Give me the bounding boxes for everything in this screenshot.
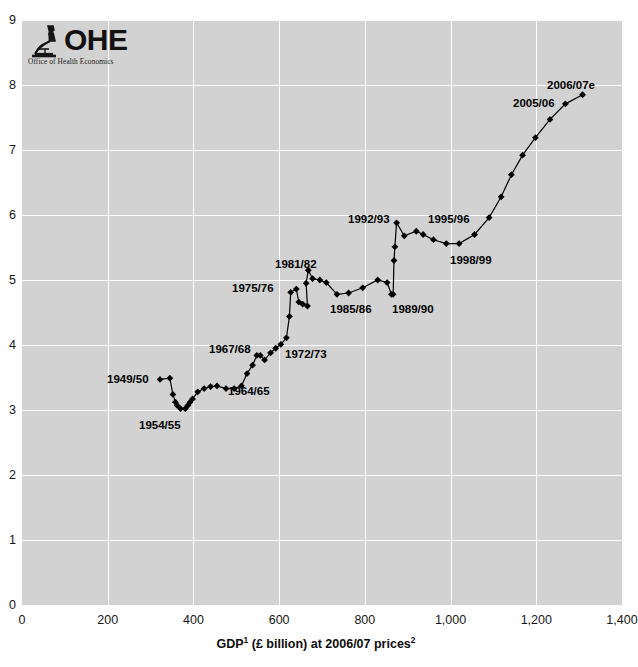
data-point-marker: [384, 279, 391, 286]
logo-subtitle: Office of Health Economics: [28, 57, 114, 66]
data-point-marker: [359, 284, 366, 291]
data-point-marker: [166, 375, 173, 382]
data-point-marker: [207, 383, 214, 390]
data-point-marker: [238, 383, 245, 390]
data-point-marker: [169, 391, 176, 398]
data-point-marker: [374, 277, 381, 284]
data-point-marker: [345, 290, 352, 297]
data-point-marker: [231, 385, 238, 392]
data-point-marker: [244, 370, 251, 377]
x-axis-title: GDP1 (£ billion) at 2006/07 prices2: [0, 637, 632, 651]
data-point-marker: [309, 275, 316, 282]
data-point-marker: [391, 257, 398, 264]
data-point-marker: [303, 280, 310, 287]
data-point-marker: [456, 240, 463, 247]
data-point-marker: [413, 228, 420, 235]
data-point-marker: [305, 267, 312, 274]
data-point-marker: [201, 385, 208, 392]
data-point-marker: [508, 171, 515, 178]
data-point-marker: [430, 236, 437, 243]
data-point-marker: [401, 232, 408, 239]
data-point-marker: [579, 91, 586, 98]
data-point-marker: [498, 193, 505, 200]
data-point-marker: [249, 362, 256, 369]
data-point-marker: [420, 231, 427, 238]
data-point-marker: [287, 289, 294, 296]
data-point-marker: [393, 219, 400, 226]
data-point-marker: [223, 385, 230, 392]
series-line: [160, 95, 583, 409]
data-point-marker: [443, 240, 450, 247]
data-point-marker: [316, 277, 323, 284]
data-point-marker: [286, 313, 293, 320]
ohe-logo: OHE Office of Health Economics: [26, 23, 130, 69]
data-point-marker: [157, 376, 164, 383]
data-point-marker: [391, 243, 398, 250]
logo-acronym: OHE: [64, 25, 128, 55]
data-point-marker: [214, 383, 221, 390]
data-point-marker: [293, 286, 300, 293]
